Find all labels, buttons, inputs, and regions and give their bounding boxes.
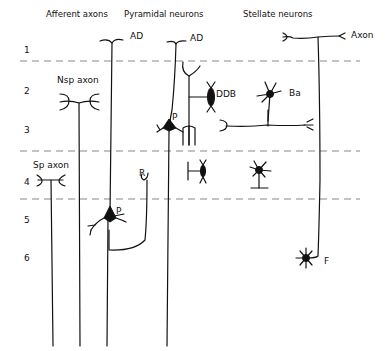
diagram-drawing bbox=[0, 0, 390, 351]
basket-cell-axon bbox=[220, 119, 313, 131]
ddb-cell-drawing bbox=[207, 82, 215, 112]
neuron-diagram: Afferent axons Pyramidal neurons Stellat… bbox=[0, 0, 390, 351]
r-terminal-drawing bbox=[141, 173, 148, 180]
ddb-cell-layer4 bbox=[188, 160, 206, 183]
pyramidal-neuron-layer3 bbox=[157, 41, 186, 346]
pyramidal-neuron-layer5 bbox=[88, 39, 147, 346]
sp-axon-drawing bbox=[37, 175, 65, 346]
ddb-associated-axon bbox=[183, 62, 208, 145]
basket-cell-drawing bbox=[257, 82, 281, 126]
nsp-axon-drawing bbox=[60, 94, 99, 346]
stellate-cell-layer4 bbox=[250, 161, 271, 188]
